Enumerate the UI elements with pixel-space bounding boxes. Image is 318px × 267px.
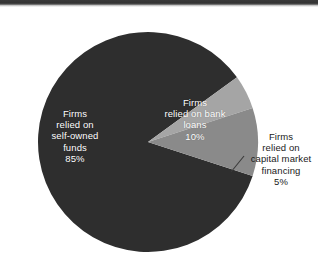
pie-chart-figure: Firms relied on self-owned funds 85% Fir… (0, 0, 318, 267)
pie-label-capital-market-financing: Firms relied on capital market financing… (246, 131, 316, 187)
chart-canvas: Firms relied on self-owned funds 85% Fir… (0, 0, 318, 267)
pie-label-self-owned-funds: Firms relied on self-owned funds 85% (28, 108, 122, 164)
pie-label-bank-loans: Firms relied on bank loans 10% (152, 97, 238, 142)
